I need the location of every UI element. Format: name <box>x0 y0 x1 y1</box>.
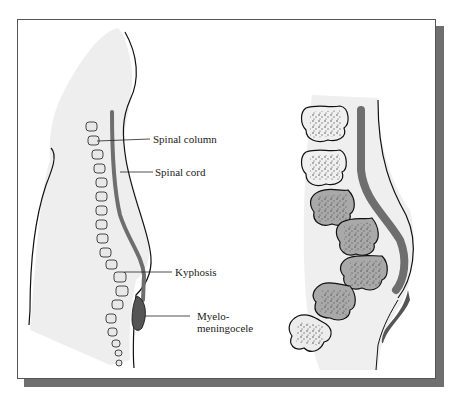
right-enlarged-spine <box>289 95 414 370</box>
spine-illustration <box>0 0 455 396</box>
label-myelomeningocele-line2: meningocele <box>197 322 253 334</box>
left-body <box>29 28 190 368</box>
label-spinal-column: Spinal column <box>153 133 217 145</box>
label-myelomeningocele-line1: Myelo- <box>197 310 229 322</box>
label-kyphosis: Kyphosis <box>175 266 217 278</box>
label-spinal-cord: Spinal cord <box>155 166 205 178</box>
